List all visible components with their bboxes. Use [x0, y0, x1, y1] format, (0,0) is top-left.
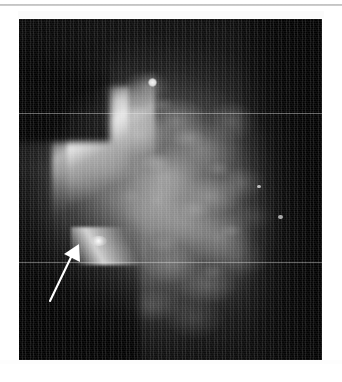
- spiculated-lesion: [71, 227, 150, 265]
- mammogram-image[interactable]: [19, 19, 322, 360]
- air-background-right: [243, 19, 322, 360]
- air-background-upper-left: [19, 19, 110, 142]
- figure-caption: [22, 364, 322, 375]
- mammogram-canvas: [19, 19, 322, 360]
- micro-density-b: [278, 215, 283, 219]
- scan-band-lower: [19, 262, 322, 263]
- top-horizontal-rule: [0, 4, 342, 6]
- air-background-lower-left: [19, 176, 140, 360]
- ghost-band-above-figure: [18, 11, 324, 18]
- figure-page: [0, 0, 342, 382]
- scan-band-upper: [19, 113, 322, 114]
